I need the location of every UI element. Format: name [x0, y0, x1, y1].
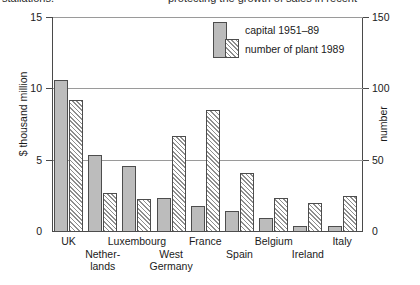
- bar-plant-luxembourg: [137, 199, 151, 232]
- bar-plant-ireland: [308, 203, 322, 232]
- x-label-italy: Italy: [282, 236, 402, 248]
- x-label-line: Italy: [282, 236, 402, 248]
- bar-capital-uk: [54, 80, 68, 232]
- bar-capital-italy: [328, 226, 342, 232]
- bar-plant-france: [206, 110, 220, 232]
- legend-label-plant: number of plant 1989: [245, 43, 344, 55]
- legend: capital 1951–89 number of plant 1989: [213, 22, 363, 66]
- tick-right-150: [363, 17, 369, 18]
- bar-plant-uk: [69, 100, 83, 232]
- bar-capital-west-germany: [157, 198, 171, 232]
- tick-label-left-10: 10: [30, 83, 42, 93]
- bar-capital-nether-lands: [88, 155, 102, 232]
- tick-right-100: [363, 88, 369, 89]
- x-label-line: Germany: [111, 261, 231, 273]
- tick-label-left-0: 0: [36, 226, 42, 236]
- bar-plant-italy: [343, 196, 357, 232]
- tick-right-50: [363, 160, 369, 161]
- y-axis-right-title: number: [377, 69, 389, 179]
- tick-label-left-5: 5: [36, 155, 42, 165]
- bar-capital-spain: [225, 211, 239, 233]
- tick-label-right-150: 150: [372, 12, 390, 22]
- bar-chart: 15 10 5 0 150 100 50 0 $ thousand millio…: [0, 0, 420, 285]
- bar-capital-ireland: [293, 226, 307, 232]
- bar-plant-west-germany: [172, 136, 186, 232]
- bar-capital-luxembourg: [122, 166, 136, 232]
- bar-capital-france: [191, 206, 205, 232]
- x-label-line: Ireland: [248, 249, 368, 261]
- bar-plant-belgium: [274, 198, 288, 232]
- tick-label-left-15: 15: [30, 12, 42, 22]
- legend-swatch-plant: [225, 39, 239, 58]
- y-axis-left-title: $ thousand million: [17, 39, 29, 189]
- legend-label-capital: capital 1951–89: [245, 24, 319, 36]
- x-label-ireland: Ireland: [248, 249, 368, 261]
- bar-plant-nether-lands: [103, 193, 117, 232]
- bar-capital-belgium: [259, 218, 273, 232]
- bar-plant-spain: [240, 173, 254, 232]
- tick-label-right-0: 0: [372, 226, 378, 236]
